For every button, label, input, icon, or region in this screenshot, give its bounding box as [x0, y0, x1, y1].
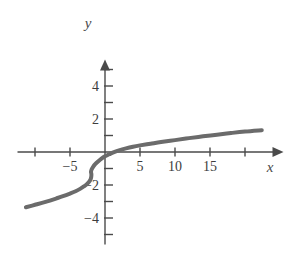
axes-group — [18, 60, 284, 245]
x-tick-label: 5 — [137, 159, 144, 174]
x-axis-tick-labels: −551015 — [63, 159, 217, 174]
x-axis-arrowhead — [273, 147, 284, 157]
y-axis-label: y — [83, 15, 92, 31]
x-tick-label: −5 — [63, 159, 78, 174]
y-tick-label: 2 — [92, 112, 99, 127]
data-curve — [26, 130, 262, 207]
x-tick-label: 15 — [203, 159, 217, 174]
y-tick-label: −4 — [84, 211, 99, 226]
x-axis-label: x — [266, 159, 274, 175]
cube-root-plot: −551015 −4−224 x y — [0, 0, 286, 271]
y-tick-label: 4 — [92, 79, 99, 94]
chart-figure: −551015 −4−224 x y — [0, 0, 286, 271]
x-tick-label: 10 — [168, 159, 182, 174]
